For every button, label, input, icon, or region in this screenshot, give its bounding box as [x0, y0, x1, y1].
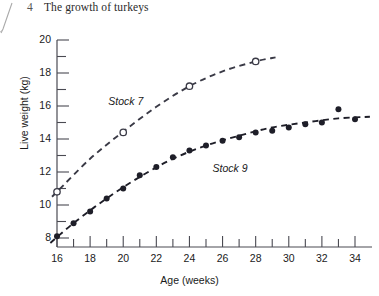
- data-point: [120, 129, 126, 135]
- x-tick-label: 28: [243, 252, 269, 264]
- y-tick-label: 8: [25, 231, 51, 243]
- data-point: [319, 120, 325, 126]
- x-tick-label: 18: [77, 252, 103, 264]
- trend-line: [50, 117, 370, 243]
- x-tick-label: 20: [110, 252, 136, 264]
- series-annotation: Stock 7: [108, 95, 143, 107]
- y-tick-label: 14: [25, 132, 51, 144]
- y-tick-label: 10: [25, 198, 51, 210]
- x-tick-label: 32: [309, 252, 335, 264]
- series-annotation: Stock 9: [213, 162, 248, 174]
- y-tick-label: 20: [25, 33, 51, 45]
- figure-container: 4 The growth of turkeys Live weight (kg)…: [0, 0, 379, 296]
- data-point: [186, 83, 192, 89]
- data-point: [153, 164, 159, 170]
- data-point: [252, 58, 258, 64]
- data-point: [137, 172, 143, 178]
- data-point: [54, 189, 60, 195]
- x-tick-label: 30: [276, 252, 302, 264]
- data-point: [170, 154, 176, 160]
- trend-line: [52, 57, 276, 196]
- data-point: [236, 134, 242, 140]
- data-point: [269, 128, 275, 134]
- data-point: [203, 143, 209, 149]
- data-point: [286, 124, 292, 130]
- data-point: [302, 121, 308, 127]
- series-stock-7: [52, 57, 276, 196]
- data-point: [71, 220, 77, 226]
- y-tick-label: 18: [25, 66, 51, 78]
- data-point: [186, 148, 192, 154]
- data-point: [335, 106, 341, 112]
- series-stock-9: [50, 106, 370, 243]
- x-tick-label: 34: [342, 252, 368, 264]
- data-point: [352, 116, 358, 122]
- x-tick-label: 16: [44, 252, 70, 264]
- y-tick-label: 12: [25, 165, 51, 177]
- x-tick-label: 22: [143, 252, 169, 264]
- data-point: [220, 138, 226, 144]
- data-point: [87, 209, 93, 215]
- data-point: [104, 195, 110, 201]
- data-point: [54, 233, 60, 239]
- data-point: [253, 129, 259, 135]
- x-tick-label: 26: [210, 252, 236, 264]
- x-tick-label: 24: [176, 252, 202, 264]
- data-point: [120, 186, 126, 192]
- y-tick-label: 16: [25, 99, 51, 111]
- x-axis-title: Age (weeks): [0, 274, 379, 286]
